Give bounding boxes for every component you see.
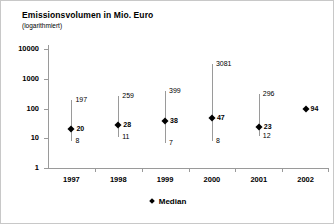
y-tick-1: 1 — [44, 168, 49, 169]
min-label-2001: 12 — [263, 132, 271, 139]
y-tick-label-10000: 10000 — [18, 44, 39, 53]
x-axis-label-1999: 1999 — [157, 175, 174, 184]
min-label-1998: 11 — [122, 133, 129, 140]
x-tick-3 — [189, 168, 190, 172]
min-label-1997: 8 — [75, 137, 79, 144]
max-label-2001: 296 — [263, 90, 275, 97]
y-axis-line — [48, 45, 49, 169]
median-marker-2002 — [302, 106, 309, 113]
x-axis-label-1997: 1997 — [63, 175, 80, 184]
chart-legend: Median — [1, 197, 334, 206]
x-tick-5 — [282, 168, 283, 172]
x-axis-label-2002: 2002 — [297, 175, 314, 184]
y-tick-1000: 1000 — [44, 79, 49, 80]
range-line-2000 — [212, 64, 213, 141]
min-label-1999: 7 — [169, 139, 173, 146]
median-label-2002: 94 — [311, 105, 319, 112]
median-marker-1997 — [68, 126, 75, 133]
max-label-1998: 259 — [122, 92, 134, 99]
x-tick-4 — [235, 168, 236, 172]
chart-title: Emissionsvolumen in Mio. Euro — [22, 10, 153, 20]
y-tick-label-1: 1 — [35, 163, 39, 172]
plot-area: 100001000100101 199719981999200020012002… — [48, 45, 329, 169]
y-tick-label-100: 100 — [26, 104, 39, 113]
median-marker-2000 — [208, 115, 215, 122]
median-label-1997: 20 — [76, 125, 84, 132]
x-axis-label-2000: 2000 — [204, 175, 221, 184]
median-diamond-icon — [149, 198, 155, 204]
median-marker-2001 — [255, 124, 262, 131]
y-tick-label-1000: 1000 — [22, 74, 39, 83]
x-axis-label-1998: 1998 — [110, 175, 127, 184]
x-tick-1 — [95, 168, 96, 172]
y-tick-10: 10 — [44, 138, 49, 139]
range-line-1998 — [118, 96, 119, 137]
max-label-2000: 3081 — [216, 60, 232, 67]
max-label-1997: 197 — [75, 96, 87, 103]
median-label-1998: 28 — [123, 121, 131, 128]
x-axis-label-2001: 2001 — [250, 175, 267, 184]
median-label-2001: 23 — [264, 123, 272, 130]
median-marker-1999 — [162, 117, 169, 124]
y-tick-100: 100 — [44, 109, 49, 110]
chart-container: Emissionsvolumen in Mio. Euro (logarithm… — [0, 0, 334, 224]
median-label-2000: 47 — [217, 114, 225, 121]
median-marker-1998 — [115, 121, 122, 128]
x-tick-end — [328, 168, 329, 172]
max-label-1999: 399 — [169, 87, 181, 94]
legend-label-median: Median — [159, 197, 187, 206]
min-label-2000: 8 — [216, 137, 220, 144]
median-label-1999: 38 — [170, 117, 178, 124]
y-tick-10000: 10000 — [44, 49, 49, 50]
y-tick-label-10: 10 — [31, 133, 39, 142]
chart-subtitle: (logarithmiert) — [22, 22, 62, 29]
range-line-1997 — [71, 100, 72, 141]
x-tick-2 — [142, 168, 143, 172]
